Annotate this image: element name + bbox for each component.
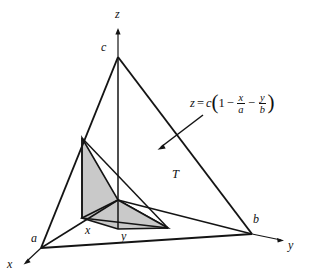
equation-fraction-x-over-a: x a xyxy=(237,92,244,115)
equation-minus-1: − xyxy=(227,97,234,110)
equation-lhs: z xyxy=(190,97,195,110)
equation-fraction-y-over-b: y b xyxy=(259,92,266,115)
z-axis-label: z xyxy=(115,8,120,20)
equation-minus-2: − xyxy=(248,97,255,110)
fraction-numerator-y: y xyxy=(259,92,266,103)
y-intercept-vertex-label: b xyxy=(253,213,259,225)
equation-open-paren: ( xyxy=(212,94,219,111)
edge-apex-to-b xyxy=(118,57,252,234)
equation-pointer xyxy=(158,115,204,150)
y-axis-arrowhead xyxy=(277,238,284,243)
z-axis-arrowhead xyxy=(115,28,120,34)
fraction-denominator-a: a xyxy=(237,103,244,115)
y-axis-label: y xyxy=(288,239,293,251)
x-axis-label: x xyxy=(7,258,12,270)
fraction-denominator-b: b xyxy=(259,103,266,115)
y-axis-line xyxy=(252,234,281,240)
apex-vertex-label: c xyxy=(101,41,106,53)
equation-one: 1 xyxy=(219,97,225,110)
equation-close-paren: ) xyxy=(267,94,274,111)
fraction-numerator-x: x xyxy=(238,92,245,103)
x-intercept-vertex-label: a xyxy=(31,232,37,244)
figure-canvas xyxy=(0,0,313,277)
x-coordinate-mark-label: x xyxy=(85,224,90,236)
y-coordinate-mark-label: y xyxy=(121,230,126,242)
region-label-T: T xyxy=(172,168,179,181)
equation-equals: = xyxy=(197,97,204,110)
tetrahedron-figure: z c a x b y x y T z = c ( 1 − x a − y b … xyxy=(0,0,313,277)
plane-equation: z = c ( 1 − x a − y b ) xyxy=(190,92,274,115)
edge-a-to-b xyxy=(41,234,252,248)
